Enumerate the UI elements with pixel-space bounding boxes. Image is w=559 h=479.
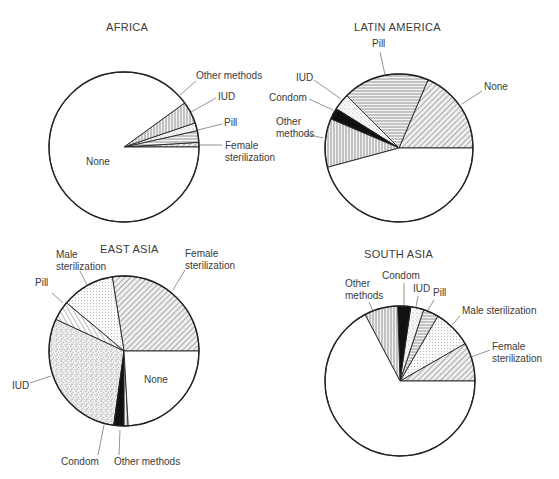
slice-label-other-methods: Other methods — [114, 456, 180, 467]
pie-latin-america: LATIN AMERICA PillNoneIUDCondomOthermeth… — [269, 21, 508, 222]
slice-label-pill: Pill — [433, 287, 446, 298]
slice-label-iud: IUD — [296, 72, 313, 83]
slice-label-none: None — [86, 156, 110, 167]
leader-line — [309, 99, 333, 110]
leader-line — [191, 98, 216, 112]
pie-slice-female-sterilization — [112, 276, 199, 351]
slice-label-other-methods: Othermethods — [345, 278, 383, 301]
slice-label-male-sterilization: Male sterilization — [462, 305, 536, 316]
leader-line — [52, 293, 63, 303]
slice-label-none: None — [484, 81, 508, 92]
slice-label-condom: Condom — [61, 456, 99, 467]
leader-line — [314, 80, 341, 99]
chart-title-latin-america: LATIN AMERICA — [354, 21, 441, 33]
slice-label-condom: Condom — [269, 92, 307, 103]
slice-label-female-sterilization: Femalesterilization — [492, 341, 542, 364]
chart-title-east-asia: EAST ASIA — [100, 243, 159, 255]
slice-label-male-sterilization: Malesterilization — [56, 249, 106, 272]
leader-line — [119, 430, 120, 455]
leader-line — [380, 52, 385, 75]
leader-line — [173, 270, 185, 290]
pie-slice-none — [124, 351, 199, 426]
leader-line — [471, 350, 490, 357]
slice-label-female-sterilization: Femalesterilization — [185, 248, 235, 271]
pie-chart-panel: AFRICA Other methodsIUDPillFemalesterili… — [0, 0, 559, 479]
leader-line — [416, 296, 418, 307]
chart-title-south-asia: SOUTH ASIA — [364, 248, 433, 260]
leader-line — [369, 302, 373, 311]
leader-line — [198, 124, 222, 130]
slice-label-pill: Pill — [224, 117, 237, 128]
slice-label-pill: Pill — [372, 38, 385, 49]
leader-line — [98, 425, 104, 455]
leader-line — [452, 316, 460, 325]
slice-label-female-sterilization: Femalesterilization — [225, 140, 275, 163]
leader-line — [80, 271, 87, 285]
pie-africa: AFRICA Other methodsIUDPillFemalesterili… — [49, 21, 275, 222]
slice-label-iud: IUD — [413, 283, 430, 294]
slice-label-iud: IUD — [12, 380, 29, 391]
slice-label-other-methods: Other methods — [196, 70, 262, 81]
leader-line — [180, 81, 196, 95]
slice-label-other-methods: Othermethods — [276, 116, 314, 139]
slice-label-condom: Condom — [382, 270, 420, 281]
pie-east-asia: EAST ASIA MalesterilizationFemalesterili… — [12, 243, 235, 467]
chart-title-africa: AFRICA — [106, 21, 148, 33]
leader-line — [30, 376, 51, 383]
slice-label-pill: Pill — [35, 277, 48, 288]
pie-south-asia: SOUTH ASIA CondomOthermethodsIUDPillMale… — [325, 248, 542, 456]
leader-line — [428, 300, 434, 310]
leader-line — [462, 91, 482, 104]
pie-slice-none — [49, 72, 199, 222]
slice-label-none: None — [144, 374, 168, 385]
slice-label-iud: IUD — [218, 91, 235, 102]
